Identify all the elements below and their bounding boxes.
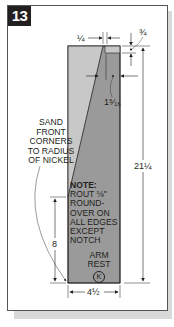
- part-name-line: REST: [84, 260, 114, 269]
- dim-notch-width: 1⁵⁄₁₆: [104, 98, 121, 107]
- dim-notch-depth: ¾: [139, 28, 147, 37]
- dim-top-offset: ¼: [77, 34, 85, 43]
- dim-taper-height: 8: [52, 240, 57, 249]
- part-letter-circle-icon: K: [93, 271, 105, 283]
- part-label: ARM REST K: [84, 251, 114, 283]
- routing-note: NOTE: ROUT ⅛" ROUND- OVER ON ALL EDGES E…: [70, 181, 122, 245]
- note-line: NOTCH: [70, 236, 122, 245]
- sand-corners-note: SAND FRONT CORNERS TO RADIUS OF NICKEL: [16, 118, 86, 166]
- dim-overall-length: 21¼: [134, 162, 152, 171]
- notch: [105, 46, 120, 53]
- sand-line: OF NICKEL: [16, 156, 86, 166]
- dim-width: 4½: [87, 288, 100, 297]
